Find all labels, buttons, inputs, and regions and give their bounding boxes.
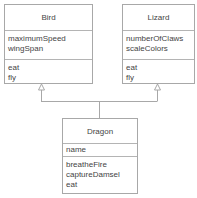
class-dragon-attributes: name: [63, 144, 137, 157]
operation: eat: [66, 180, 137, 190]
lizard-inheritance-arrowhead: [155, 84, 161, 90]
class-bird[interactable]: Bird maximumSpeed wingSpan eat fly: [4, 4, 93, 84]
bird-inheritance-arrowhead: [39, 84, 45, 90]
class-lizard[interactable]: Lizard numberOfClaws scaleColors eat fly: [122, 4, 195, 84]
attribute: wingSpan: [8, 44, 92, 54]
class-lizard-operations: eat fly: [123, 60, 194, 83]
attribute: maximumSpeed: [8, 34, 92, 44]
operation: breatheFire: [66, 160, 137, 170]
class-bird-title: Bird: [41, 13, 55, 22]
class-bird-operations: eat fly: [5, 60, 92, 83]
class-bird-attributes: maximumSpeed wingSpan: [5, 31, 92, 60]
class-lizard-attributes: numberOfClaws scaleColors: [123, 31, 194, 60]
attribute: name: [66, 145, 137, 155]
class-dragon-name: Dragon: [63, 119, 137, 144]
class-dragon-operations: breatheFire captureDamsel eat: [63, 157, 137, 190]
attribute: numberOfClaws: [126, 34, 194, 44]
operation: fly: [126, 73, 194, 83]
operation: captureDamsel: [66, 170, 137, 180]
class-lizard-name: Lizard: [123, 5, 194, 31]
class-lizard-title: Lizard: [148, 13, 170, 22]
operation: eat: [126, 63, 194, 73]
class-dragon-title: Dragon: [87, 127, 113, 136]
operation: eat: [8, 63, 92, 73]
class-bird-name: Bird: [5, 5, 92, 31]
operation: fly: [8, 73, 92, 83]
class-dragon[interactable]: Dragon name breatheFire captureDamsel ea…: [62, 118, 138, 194]
attribute: scaleColors: [126, 44, 194, 54]
